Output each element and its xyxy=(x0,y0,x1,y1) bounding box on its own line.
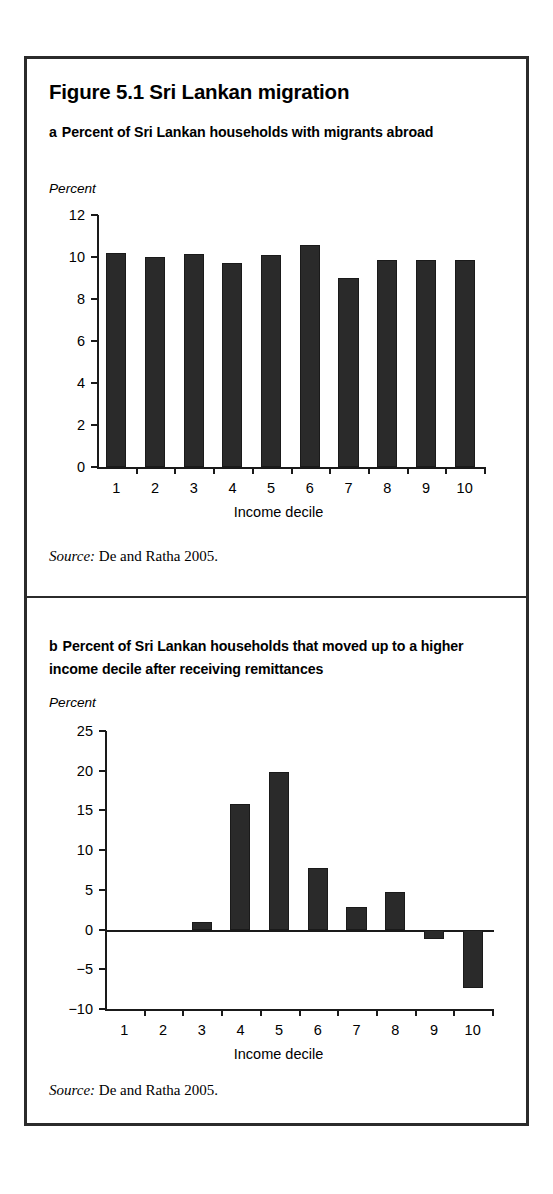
x-axis-tick xyxy=(260,1009,262,1016)
y-axis-tick-label: 10 xyxy=(39,250,85,265)
y-axis-tick-label: −10 xyxy=(47,1002,93,1017)
chart-panel-b: −10−5051015202512345678910Income decile xyxy=(49,721,508,1069)
y-axis-tick xyxy=(91,214,98,216)
bar xyxy=(261,255,281,467)
x-axis-tick xyxy=(368,467,370,474)
y-axis-tick-label: 15 xyxy=(47,803,93,818)
bar xyxy=(300,245,320,467)
panel-b-source: Source: De and Ratha 2005. xyxy=(49,1081,218,1099)
panel-b-heading-text: Percent of Sri Lankan households that mo… xyxy=(49,638,464,677)
x-axis-tick xyxy=(182,1009,184,1016)
bar xyxy=(455,260,475,467)
x-axis-title: Income decile xyxy=(49,505,508,520)
x-axis-tick xyxy=(299,1009,301,1016)
bar xyxy=(463,930,483,988)
y-axis-tick-label: 10 xyxy=(47,843,93,858)
y-axis-tick-label: 4 xyxy=(39,376,85,391)
y-axis-tick-label: 20 xyxy=(47,764,93,779)
bar xyxy=(184,254,204,467)
x-axis-tick xyxy=(376,1009,378,1016)
y-axis-tick xyxy=(99,730,106,732)
panel-b-source-word: Source: xyxy=(49,1082,95,1098)
panel-b-label: b xyxy=(49,638,58,654)
y-axis-tick xyxy=(99,968,106,970)
y-axis-tick xyxy=(91,340,98,342)
y-axis-tick-label: 5 xyxy=(47,883,93,898)
x-axis-tick-label: 10 xyxy=(440,481,490,496)
x-axis-tick xyxy=(415,1009,417,1016)
bar xyxy=(346,907,366,929)
bar xyxy=(222,263,242,467)
bar xyxy=(416,260,436,467)
panel-b-unit-label: Percent xyxy=(49,695,96,711)
panel-a-source: Source: De and Ratha 2005. xyxy=(49,547,218,565)
bar xyxy=(424,930,444,940)
x-axis-tick xyxy=(337,1009,339,1016)
x-axis-tick xyxy=(136,467,138,474)
y-axis-tick xyxy=(91,298,98,300)
bar xyxy=(385,892,405,929)
x-axis-end-tick xyxy=(492,1009,494,1016)
panel-divider xyxy=(27,596,526,598)
bar xyxy=(308,868,328,930)
panel-b-heading: bPercent of Sri Lankan households that m… xyxy=(49,635,511,681)
y-axis-tick-label: 0 xyxy=(47,923,93,938)
panel-a-source-word: Source: xyxy=(49,548,95,564)
chart-panel-a: 02468101212345678910Income decile xyxy=(49,207,508,527)
x-axis-tick xyxy=(407,467,409,474)
y-axis-tick xyxy=(99,1008,106,1010)
x-axis-tick xyxy=(252,467,254,474)
panel-a-heading-text: Percent of Sri Lankan households with mi… xyxy=(62,124,434,140)
y-axis-tick xyxy=(91,424,98,426)
figure-frame: Figure 5.1 Sri Lankan migration aPercent… xyxy=(24,56,529,1126)
panel-a-label: a xyxy=(49,124,57,140)
y-axis-tick-label: 2 xyxy=(39,418,85,433)
y-axis-tick xyxy=(91,256,98,258)
x-axis-tick xyxy=(221,1009,223,1016)
x-axis-title: Income decile xyxy=(49,1047,508,1062)
page-title: Figure 5.1 Sri Lankan migration xyxy=(49,81,504,104)
y-axis-tick xyxy=(99,809,106,811)
y-axis-tick xyxy=(99,889,106,891)
x-axis-tick xyxy=(329,467,331,474)
x-axis-end-tick xyxy=(484,467,486,474)
bar xyxy=(145,257,165,467)
y-axis-tick xyxy=(99,929,106,931)
x-axis-tick xyxy=(453,1009,455,1016)
x-axis-tick xyxy=(144,1009,146,1016)
y-axis-tick-label: 12 xyxy=(39,208,85,223)
bar xyxy=(230,804,250,929)
panel-a-unit-label: Percent xyxy=(49,181,96,197)
bar xyxy=(377,260,397,467)
x-axis-tick xyxy=(213,467,215,474)
x-axis-tick xyxy=(445,467,447,474)
y-axis-tick xyxy=(91,466,98,468)
x-axis-tick-label: 10 xyxy=(448,1023,498,1038)
y-axis-tick-label: 6 xyxy=(39,334,85,349)
bar xyxy=(106,253,126,467)
bar xyxy=(192,922,212,929)
y-axis-tick-label: 0 xyxy=(39,460,85,475)
panel-a-source-text: De and Ratha 2005. xyxy=(95,548,218,564)
x-axis-tick xyxy=(174,467,176,474)
figure-inner: Figure 5.1 Sri Lankan migration aPercent… xyxy=(27,59,526,1123)
y-axis-tick-label: 25 xyxy=(47,724,93,739)
panel-a-heading: aPercent of Sri Lankan households with m… xyxy=(49,121,489,144)
panel-b-source-text: De and Ratha 2005. xyxy=(95,1082,218,1098)
bar xyxy=(338,278,358,467)
y-axis-tick xyxy=(91,382,98,384)
y-axis-tick xyxy=(99,770,106,772)
x-axis-tick xyxy=(291,467,293,474)
y-axis-tick-label: 8 xyxy=(39,292,85,307)
bar xyxy=(269,772,289,930)
y-axis-tick xyxy=(99,849,106,851)
y-axis-tick-label: −5 xyxy=(47,962,93,977)
